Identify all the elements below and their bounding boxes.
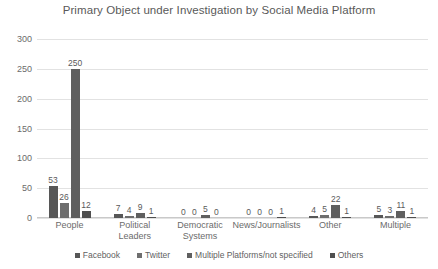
legend-item[interactable]: Others bbox=[330, 250, 364, 260]
bar-slot[interactable]: 53 bbox=[49, 39, 58, 218]
bar-slot[interactable]: 1 bbox=[277, 39, 286, 218]
y-axis-tick-label: 0 bbox=[4, 214, 32, 223]
bar-slot[interactable]: 5 bbox=[374, 39, 383, 218]
bar-slot[interactable]: 3 bbox=[385, 39, 394, 218]
bar-slot[interactable]: 0 bbox=[179, 39, 188, 218]
legend-swatch-icon bbox=[187, 253, 192, 258]
legend-item[interactable]: Twitter bbox=[137, 250, 170, 260]
bar[interactable] bbox=[396, 211, 405, 218]
bar-slot[interactable]: 5 bbox=[320, 39, 329, 218]
bar[interactable] bbox=[374, 215, 383, 218]
bar-slot[interactable]: 0 bbox=[255, 39, 264, 218]
bar-slot[interactable]: 0 bbox=[190, 39, 199, 218]
bar-value-label: 1 bbox=[344, 207, 349, 216]
bar-slot[interactable]: 5 bbox=[201, 39, 210, 218]
bar[interactable] bbox=[71, 69, 80, 218]
y-axis-tick-label: 200 bbox=[4, 95, 32, 104]
bar-slot[interactable]: 1 bbox=[147, 39, 156, 218]
legend-swatch-icon bbox=[75, 253, 80, 258]
bar-slot[interactable]: 250 bbox=[71, 39, 80, 218]
bar-slot[interactable]: 0 bbox=[212, 39, 221, 218]
bar[interactable] bbox=[114, 214, 123, 218]
bar-value-label: 12 bbox=[81, 201, 90, 210]
bar[interactable] bbox=[309, 216, 318, 218]
bar-value-label: 4 bbox=[311, 206, 316, 215]
bar-value-label: 0 bbox=[214, 208, 219, 217]
bar-value-label: 0 bbox=[257, 208, 262, 217]
plot-area: 5326250127491005000014522153111 bbox=[37, 39, 428, 218]
chart-legend: FacebookTwitterMultiple Platforms/not sp… bbox=[0, 250, 438, 260]
bar-slot[interactable]: 4 bbox=[309, 39, 318, 218]
bar-slot[interactable]: 1 bbox=[342, 39, 351, 218]
bar-value-label: 9 bbox=[138, 203, 143, 212]
bar-value-label: 11 bbox=[396, 201, 405, 210]
bar-chart: Primary Object under Investigation by So… bbox=[0, 0, 438, 269]
bar[interactable] bbox=[385, 216, 394, 218]
bar-slot[interactable]: 4 bbox=[125, 39, 134, 218]
bar-group: 45221 bbox=[298, 39, 363, 218]
bar[interactable] bbox=[331, 205, 340, 218]
bar-group: 53111 bbox=[363, 39, 428, 218]
bar[interactable] bbox=[136, 213, 145, 218]
x-axis-category-label: Other bbox=[298, 220, 363, 231]
legend-swatch-icon bbox=[137, 253, 142, 258]
bar-slot[interactable]: 0 bbox=[266, 39, 275, 218]
gridline bbox=[37, 218, 428, 219]
legend-swatch-icon bbox=[330, 253, 335, 258]
x-axis-category-label: Democratic Systems bbox=[167, 220, 232, 241]
bar[interactable] bbox=[49, 186, 58, 218]
y-axis-tick-label: 100 bbox=[4, 154, 32, 163]
legend-label: Twitter bbox=[145, 250, 170, 260]
x-axis-labels: PeoplePolitical LeadersDemocratic System… bbox=[37, 220, 428, 246]
bar[interactable] bbox=[82, 211, 91, 218]
bar[interactable] bbox=[407, 217, 416, 218]
bar[interactable] bbox=[277, 217, 286, 218]
legend-item[interactable]: Facebook bbox=[75, 250, 120, 260]
bar-slot[interactable]: 9 bbox=[136, 39, 145, 218]
x-axis-category-label: People bbox=[37, 220, 102, 231]
legend-label: Multiple Platforms/not specified bbox=[195, 250, 313, 260]
x-axis-category-label: Political Leaders bbox=[102, 220, 167, 241]
bar-slot[interactable]: 11 bbox=[396, 39, 405, 218]
bar-value-label: 5 bbox=[322, 205, 327, 214]
y-axis-tick-label: 150 bbox=[4, 125, 32, 134]
bar-group: 532625012 bbox=[37, 39, 102, 218]
legend-label: Facebook bbox=[83, 250, 120, 260]
bar[interactable] bbox=[125, 216, 134, 218]
bar-value-label: 1 bbox=[149, 207, 154, 216]
bar-slot[interactable]: 12 bbox=[82, 39, 91, 218]
bar-slot[interactable]: 22 bbox=[331, 39, 340, 218]
y-axis-tick-label: 50 bbox=[4, 184, 32, 193]
y-axis-tick-label: 300 bbox=[4, 35, 32, 44]
bar-value-label: 26 bbox=[59, 193, 68, 202]
bar-group: 0050 bbox=[167, 39, 232, 218]
bar-value-label: 0 bbox=[246, 208, 251, 217]
x-axis-category-label: Multiple bbox=[363, 220, 428, 231]
legend-label: Others bbox=[338, 250, 364, 260]
x-axis-category-label: News/Journalists bbox=[233, 220, 298, 231]
bar-value-label: 0 bbox=[268, 208, 273, 217]
bar-value-label: 22 bbox=[331, 195, 340, 204]
bar-value-label: 3 bbox=[388, 206, 393, 215]
chart-title: Primary Object under Investigation by So… bbox=[55, 3, 383, 17]
bar-slot[interactable]: 1 bbox=[407, 39, 416, 218]
bar[interactable] bbox=[342, 217, 351, 218]
bar-value-label: 0 bbox=[192, 208, 197, 217]
bar-value-label: 4 bbox=[127, 206, 132, 215]
bar[interactable] bbox=[320, 215, 329, 218]
bar-group: 0001 bbox=[233, 39, 298, 218]
bar[interactable] bbox=[201, 215, 210, 218]
y-axis: 050100150200250300 bbox=[0, 39, 32, 219]
bar[interactable] bbox=[147, 217, 156, 218]
legend-item[interactable]: Multiple Platforms/not specified bbox=[187, 250, 313, 260]
bar-group: 7491 bbox=[102, 39, 167, 218]
bar-value-label: 0 bbox=[181, 208, 186, 217]
bar-slot[interactable]: 7 bbox=[114, 39, 123, 218]
y-axis-tick-label: 250 bbox=[4, 65, 32, 74]
bar-value-label: 1 bbox=[410, 207, 415, 216]
bar[interactable] bbox=[60, 203, 69, 219]
bar-value-label: 7 bbox=[116, 204, 121, 213]
bar-value-label: 1 bbox=[279, 207, 284, 216]
bar-value-label: 5 bbox=[377, 205, 382, 214]
bar-slot[interactable]: 0 bbox=[244, 39, 253, 218]
